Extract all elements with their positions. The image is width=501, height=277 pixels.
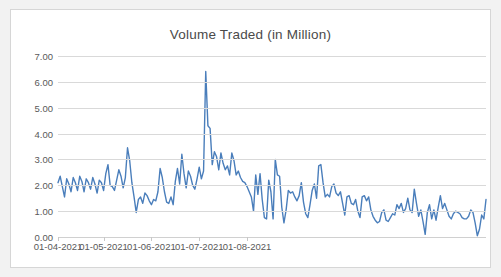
y-axis-tick-label: 4.00	[13, 128, 53, 139]
chart-container: Volume Traded (in Million) 0.001.002.003…	[10, 9, 491, 268]
y-axis-tick-label: 3.00	[13, 154, 53, 165]
gridline	[58, 134, 486, 135]
y-axis-tick-label: 1.00	[13, 206, 53, 217]
x-axis-tick-label: 01-06-2021	[127, 241, 176, 252]
y-axis-tick-label: 6.00	[13, 76, 53, 87]
gridline	[58, 56, 486, 57]
line-series-svg	[58, 56, 486, 237]
x-axis-line	[58, 237, 486, 238]
gridline	[58, 108, 486, 109]
chart-title: Volume Traded (in Million)	[11, 27, 490, 42]
y-axis-tick-label: 2.00	[13, 180, 53, 191]
chart-screenshot: Volume Traded (in Million) 0.001.002.003…	[0, 0, 501, 277]
x-axis-tick-mark	[151, 237, 152, 241]
plot-area	[58, 56, 486, 237]
gridline	[58, 211, 486, 212]
gridline	[58, 185, 486, 186]
gridline	[58, 159, 486, 160]
x-axis-tick-mark	[104, 237, 105, 241]
x-axis-tick-mark	[58, 237, 59, 241]
y-axis: 0.001.002.003.004.005.006.007.00	[13, 56, 53, 237]
y-axis-tick-label: 5.00	[13, 102, 53, 113]
x-axis-tick-label: 01-05-2021	[79, 241, 128, 252]
x-axis-tick-label: 01-04-2021	[34, 241, 83, 252]
x-axis-tick-label: 01-08-2021	[223, 241, 272, 252]
x-axis: 01-04-202101-05-202101-06-202101-07-2021…	[58, 241, 486, 259]
gridline	[58, 82, 486, 83]
x-axis-tick-label: 01-07-2021	[175, 241, 224, 252]
y-axis-tick-label: 7.00	[13, 51, 53, 62]
x-axis-tick-mark	[199, 237, 200, 241]
x-axis-tick-mark	[247, 237, 248, 241]
